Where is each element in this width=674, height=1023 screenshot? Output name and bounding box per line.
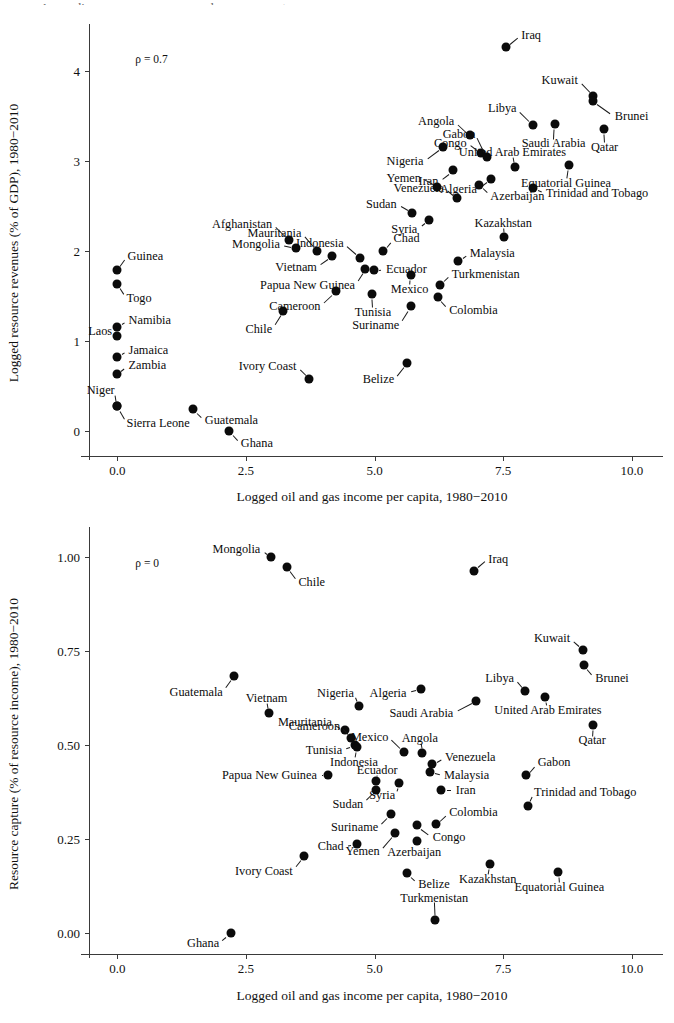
data-point[interactable] — [408, 208, 417, 217]
data-point[interactable] — [402, 359, 411, 368]
data-point[interactable] — [113, 352, 122, 361]
data-point[interactable] — [436, 280, 445, 289]
data-point[interactable] — [550, 119, 559, 128]
data-point[interactable] — [324, 771, 333, 780]
rho-annotation: ρ = 0.7 — [135, 53, 167, 65]
data-point[interactable] — [416, 684, 425, 693]
data-point[interactable] — [369, 266, 378, 275]
data-point[interactable] — [113, 323, 122, 332]
data-point[interactable] — [305, 374, 314, 383]
data-point[interactable] — [300, 852, 309, 861]
data-point[interactable] — [472, 697, 481, 706]
data-point[interactable] — [500, 233, 509, 242]
label-leader-line — [223, 937, 227, 941]
x-axis-tick-label: 10.0 — [620, 962, 643, 975]
label-leader-line — [421, 829, 429, 835]
data-point[interactable] — [113, 370, 122, 379]
data-point[interactable] — [402, 869, 411, 878]
data-point[interactable] — [523, 801, 532, 810]
data-point[interactable] — [368, 289, 377, 298]
label-leader-line — [509, 38, 517, 45]
data-point-label: Ghana — [187, 937, 219, 949]
data-point[interactable] — [521, 686, 530, 695]
data-point[interactable] — [352, 743, 361, 752]
data-point[interactable] — [225, 426, 234, 435]
data-point[interactable] — [331, 287, 340, 296]
data-point[interactable] — [424, 216, 433, 225]
data-point[interactable] — [437, 786, 446, 795]
data-point-label: Ivory Coast — [239, 360, 297, 372]
data-point[interactable] — [452, 194, 461, 203]
data-point-label: Togo — [127, 292, 152, 304]
data-point[interactable] — [487, 174, 496, 183]
label-leader-line — [284, 245, 291, 247]
x-axis-tick-label: 5.0 — [366, 464, 382, 477]
data-point[interactable] — [589, 720, 598, 729]
label-leader-line — [121, 368, 125, 372]
y-axis-title: Logged resource revenues (% of GDP), 198… — [6, 104, 22, 383]
data-point[interactable] — [432, 820, 441, 829]
data-point[interactable] — [265, 709, 274, 718]
data-point-label: Vietnam — [246, 692, 288, 704]
data-point[interactable] — [226, 929, 235, 938]
label-leader-line — [392, 740, 401, 749]
data-point[interactable] — [418, 748, 427, 757]
data-point[interactable] — [113, 402, 122, 411]
data-point[interactable] — [283, 562, 292, 571]
data-point[interactable] — [589, 97, 598, 106]
data-point[interactable] — [522, 771, 531, 780]
data-point[interactable] — [433, 293, 442, 302]
label-leader-line — [121, 352, 124, 355]
data-point[interactable] — [554, 868, 563, 877]
data-point[interactable] — [599, 125, 608, 134]
data-point[interactable] — [279, 306, 288, 315]
data-point-label: Brunei — [595, 672, 628, 684]
data-point-label: Turkmenistan — [400, 891, 468, 903]
label-leader-line — [295, 861, 301, 868]
data-point[interactable] — [448, 166, 457, 175]
data-point[interactable] — [395, 778, 404, 787]
data-point[interactable] — [541, 692, 550, 701]
y-axis-line — [89, 527, 90, 958]
data-point[interactable] — [578, 645, 587, 654]
data-point[interactable] — [486, 859, 495, 868]
data-point[interactable] — [454, 257, 463, 266]
data-point[interactable] — [431, 916, 440, 925]
data-point[interactable] — [387, 809, 396, 818]
data-point[interactable] — [564, 161, 573, 170]
data-point[interactable] — [399, 747, 408, 756]
data-point-label: Suriname — [352, 318, 399, 330]
data-point[interactable] — [511, 162, 520, 171]
data-point[interactable] — [361, 264, 370, 273]
data-point[interactable] — [372, 786, 381, 795]
data-point[interactable] — [113, 279, 122, 288]
data-point[interactable] — [230, 671, 239, 680]
data-point[interactable] — [266, 553, 275, 562]
data-point[interactable] — [372, 777, 381, 786]
data-point[interactable] — [379, 246, 388, 255]
data-point[interactable] — [391, 828, 400, 837]
data-point[interactable] — [529, 183, 538, 192]
data-point[interactable] — [406, 270, 415, 279]
data-point[interactable] — [355, 701, 364, 710]
data-point[interactable] — [413, 821, 422, 830]
label-leader-line — [442, 174, 449, 180]
data-point[interactable] — [113, 266, 122, 275]
data-point[interactable] — [356, 253, 365, 262]
data-point[interactable] — [475, 180, 484, 189]
x-axis-title: Logged oil and gas income per capita, 19… — [237, 489, 508, 505]
data-point[interactable] — [529, 120, 538, 129]
data-point[interactable] — [189, 405, 198, 414]
data-point[interactable] — [469, 566, 478, 575]
data-point-label: Chile — [298, 576, 325, 588]
data-point[interactable] — [328, 252, 337, 261]
data-point[interactable] — [501, 43, 510, 52]
data-point[interactable] — [425, 767, 434, 776]
data-point-label: Angola — [418, 115, 454, 127]
data-point[interactable] — [406, 302, 415, 311]
rho-annotation: ρ = 0 — [135, 557, 159, 569]
data-point[interactable] — [113, 332, 122, 341]
data-point[interactable] — [439, 143, 448, 152]
data-point[interactable] — [579, 660, 588, 669]
data-point-label: Ivory Coast — [235, 864, 293, 876]
